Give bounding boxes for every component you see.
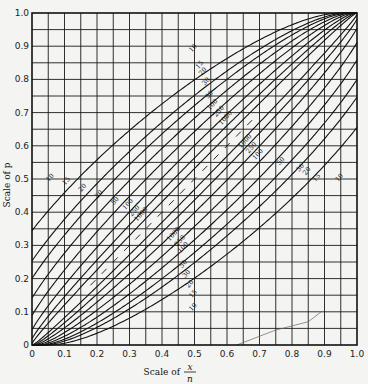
x-axis-title-numerator: x (187, 362, 192, 372)
y-tick-label: 0 (23, 340, 29, 350)
x-axis-ticks: 00.10.20.30.40.50.60.70.80.91.0 (29, 349, 364, 359)
x-tick-label: 0.6 (220, 349, 235, 359)
curve-label-n10: 10 (334, 172, 345, 184)
x-tick-label: 0.7 (252, 349, 266, 359)
curve-label-n20: 20 (77, 182, 88, 194)
y-tick-label: 0.3 (15, 240, 29, 250)
y-tick-label: 0.7 (15, 108, 29, 118)
x-tick-label: 0.4 (155, 349, 170, 359)
x-tick-label: 0.5 (187, 349, 201, 359)
y-tick-label: 0.6 (15, 141, 30, 151)
y-tick-label: 0.9 (15, 41, 30, 51)
y-tick-label: 0.8 (15, 74, 30, 84)
y-tick-label: 0.1 (15, 307, 29, 317)
y-axis-title: Scale of p (2, 162, 12, 207)
x-tick-label: 0.8 (285, 349, 300, 359)
curve-label-n10: 10 (44, 172, 55, 184)
curve-label-n15: 15 (311, 172, 322, 184)
curve-label-n10: 10 (187, 42, 198, 54)
y-tick-label: 0.2 (15, 274, 29, 284)
curve-label-n10: 10 (187, 301, 198, 313)
confidence-belt-chart: 1015203050100250100010002501005030201510… (0, 0, 368, 384)
x-tick-label: 0.2 (90, 349, 104, 359)
x-tick-label: 0.9 (317, 349, 332, 359)
curve-label-n15: 15 (61, 175, 72, 187)
x-tick-label: 0 (29, 349, 35, 359)
y-tick-label: 1.0 (15, 8, 30, 18)
curve-label-n30: 30 (93, 189, 104, 201)
x-tick-label: 0.1 (57, 349, 71, 359)
x-tick-label: 1.0 (350, 349, 365, 359)
y-axis-ticks: 00.10.20.30.40.50.60.70.80.91.0 (15, 8, 30, 350)
x-axis-title-denominator: n (187, 374, 193, 384)
curve-label-n50: 50 (275, 155, 286, 167)
curve-label-n50: 50 (109, 195, 120, 207)
x-axis-title: Scale of x n (144, 362, 196, 384)
y-tick-label: 0.4 (15, 207, 30, 217)
x-tick-label: 0.3 (122, 349, 136, 359)
y-tick-label: 0.5 (15, 174, 29, 184)
x-axis-title-prefix: Scale of (144, 367, 181, 377)
